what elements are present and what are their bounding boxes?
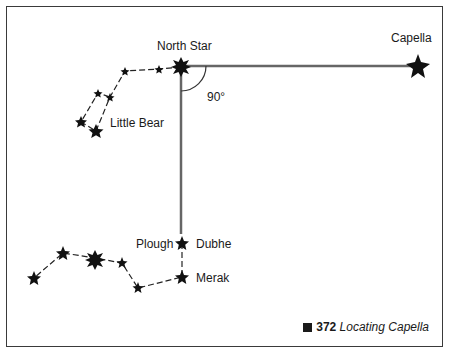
caption-square-icon <box>303 323 312 332</box>
figure-title: Locating Capella <box>340 320 429 334</box>
figure-number: 372 <box>316 320 336 334</box>
angle-label: 90° <box>207 90 225 104</box>
little-bear-star-icon <box>106 93 115 102</box>
star-diagram <box>0 0 449 355</box>
plough-star-icon <box>133 282 144 293</box>
little-bear-star-icon <box>89 124 104 138</box>
plough-star-icon <box>85 250 105 270</box>
dubhe-label: Dubhe <box>196 237 231 251</box>
little-bear-star-icon <box>94 89 103 98</box>
north-star-icon <box>171 57 191 77</box>
little-bear-star-icon <box>75 116 87 128</box>
plough-label: Plough <box>136 237 173 251</box>
north-star-label: North Star <box>157 39 212 53</box>
little-bear-star-icon <box>121 67 130 76</box>
merak-star-icon <box>175 270 189 284</box>
little-bear-star-icon <box>155 65 164 74</box>
little-bear-label: Little Bear <box>110 116 164 130</box>
capella-label: Capella <box>391 31 432 45</box>
merak-label: Merak <box>196 271 229 285</box>
plough-star-icon <box>117 257 128 268</box>
figure-caption: 372 Locating Capella <box>303 320 429 334</box>
capella-star-icon <box>406 54 430 78</box>
